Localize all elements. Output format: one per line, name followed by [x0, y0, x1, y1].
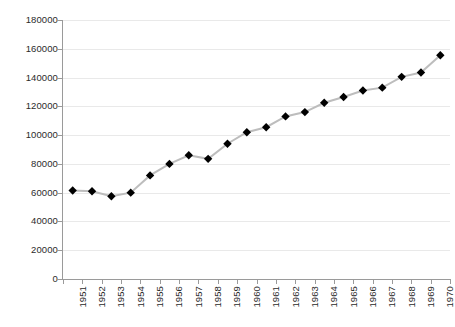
- x-axis-label-1957: 1957: [193, 286, 204, 308]
- x-axis-label-1968: 1968: [406, 286, 417, 308]
- y-axis-label-120000: 120000: [0, 101, 58, 111]
- y-tick-40000: [57, 221, 62, 222]
- y-axis-label-160000: 160000: [0, 44, 58, 54]
- x-tick-1953: [102, 280, 103, 284]
- x-tick-1957: [179, 280, 180, 284]
- y-axis-label-80000: 80000: [0, 159, 58, 169]
- x-axis-label-1956: 1956: [173, 286, 184, 308]
- y-axis-label-180000: 180000: [0, 15, 58, 25]
- y-axis-label-140000: 140000: [0, 73, 58, 83]
- x-axis-label-1963: 1963: [309, 286, 320, 308]
- x-axis-label-1967: 1967: [386, 286, 397, 308]
- data-point-1961: [262, 123, 270, 131]
- y-axis-label-40000: 40000: [0, 216, 58, 226]
- data-point-1968: [397, 73, 405, 81]
- x-tick-1960: [237, 280, 238, 284]
- x-tick-1961: [257, 280, 258, 284]
- y-axis-label-100000: 100000: [0, 130, 58, 140]
- data-point-1965: [339, 93, 347, 101]
- x-axis-label-1953: 1953: [115, 286, 126, 308]
- x-axis-label-1964: 1964: [328, 286, 339, 308]
- x-axis-tick-labels: 1951195219531954195519561957195819591960…: [63, 286, 450, 327]
- y-axis-label-0: 0: [0, 274, 58, 284]
- x-tick-1951: [63, 280, 64, 284]
- x-tick-1954: [121, 280, 122, 284]
- y-axis-label-60000: 60000: [0, 188, 58, 198]
- y-tick-160000: [57, 49, 62, 50]
- x-axis-label-1969: 1969: [425, 286, 436, 308]
- y-tick-0: [57, 279, 62, 280]
- x-tick-1966: [353, 280, 354, 284]
- x-tick-1955: [140, 280, 141, 284]
- y-axis-tick-labels: 0200004000060000800001000001200001400001…: [0, 0, 58, 327]
- data-point-1960: [243, 128, 251, 136]
- x-tick-1956: [160, 280, 161, 284]
- line-chart: 0200004000060000800001000001200001400001…: [0, 0, 455, 327]
- x-axis-label-1951: 1951: [77, 286, 88, 308]
- y-tick-120000: [57, 106, 62, 107]
- x-tick-1967: [373, 280, 374, 284]
- plot-area: [63, 20, 450, 279]
- y-axis-label-20000: 20000: [0, 245, 58, 255]
- x-tick-1962: [276, 280, 277, 284]
- x-tick-1959: [218, 280, 219, 284]
- y-tick-140000: [57, 78, 62, 79]
- y-tick-80000: [57, 164, 62, 165]
- x-axis-label-1959: 1959: [231, 286, 242, 308]
- data-point-1952: [88, 187, 96, 195]
- x-axis-label-1960: 1960: [251, 286, 262, 308]
- x-axis-label-1962: 1962: [290, 286, 301, 308]
- data-point-1962: [281, 112, 289, 120]
- x-axis-label-1955: 1955: [154, 286, 165, 308]
- x-tick-1970: [431, 280, 432, 284]
- x-axis-label-1970: 1970: [444, 286, 455, 308]
- data-point-1957: [185, 151, 193, 159]
- data-point-1966: [359, 86, 367, 94]
- x-tick-1969: [411, 280, 412, 284]
- x-axis-label-1952: 1952: [96, 286, 107, 308]
- data-series: [63, 20, 450, 279]
- x-axis-label-1958: 1958: [212, 286, 223, 308]
- x-tick-1965: [334, 280, 335, 284]
- x-tick-1952: [82, 280, 83, 284]
- x-tick-end: [450, 280, 451, 284]
- x-tick-1968: [392, 280, 393, 284]
- y-tick-60000: [57, 193, 62, 194]
- x-tick-1964: [315, 280, 316, 284]
- data-point-1956: [165, 160, 173, 168]
- data-point-1967: [378, 83, 386, 91]
- y-tick-20000: [57, 250, 62, 251]
- x-axis-label-1961: 1961: [270, 286, 281, 308]
- y-tick-180000: [57, 20, 62, 21]
- data-point-1963: [301, 108, 309, 116]
- x-axis-label-1965: 1965: [348, 286, 359, 308]
- data-point-1953: [107, 192, 115, 200]
- series-line: [73, 55, 441, 196]
- x-axis-label-1966: 1966: [367, 286, 378, 308]
- data-point-1964: [320, 99, 328, 107]
- y-tick-100000: [57, 135, 62, 136]
- x-axis-label-1954: 1954: [135, 286, 146, 308]
- data-point-1951: [68, 186, 76, 194]
- x-tick-1958: [198, 280, 199, 284]
- x-tick-1963: [295, 280, 296, 284]
